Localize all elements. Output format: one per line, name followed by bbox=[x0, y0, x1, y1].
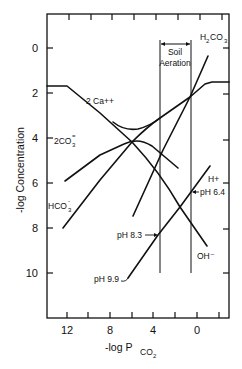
y-tick-label: 8 bbox=[32, 222, 38, 234]
svg-text:2CO: 2CO bbox=[54, 136, 72, 146]
x-axis-title-subscript: CO bbox=[140, 347, 153, 357]
label-2ca: 2 Ca++ bbox=[86, 96, 114, 106]
curves bbox=[47, 56, 229, 278]
x-tick-label: 4 bbox=[150, 324, 156, 336]
svg-text:HCO: HCO bbox=[48, 201, 67, 211]
x-tick-label: 8 bbox=[107, 324, 113, 336]
label-ph83: pH 8.3 bbox=[117, 230, 158, 240]
svg-text:3: 3 bbox=[224, 38, 228, 44]
x-axis-ticks-bottom bbox=[67, 312, 219, 318]
plot-frame bbox=[47, 14, 229, 318]
svg-text:-: - bbox=[68, 198, 70, 204]
x-tick-label: 12 bbox=[61, 324, 73, 336]
svg-text:pH 9.9: pH 9.9 bbox=[94, 274, 119, 284]
x-tick-labels: 12 8 4 0 bbox=[61, 324, 200, 336]
label-2co3: 2CO 3 = bbox=[54, 133, 76, 148]
y-axis-title: -log Concentration bbox=[14, 127, 26, 213]
curve-ca-arc bbox=[113, 82, 229, 129]
curve-hco3 bbox=[63, 118, 160, 228]
y-tick-labels: 0 2 4 6 8 10 bbox=[26, 42, 38, 279]
label-ph64: pH 6.4 bbox=[192, 187, 225, 197]
y-tick-label: 4 bbox=[32, 132, 38, 144]
ph99-hook bbox=[121, 278, 128, 281]
chart-figure: 0 2 4 6 8 10 12 8 4 0 -log Concentration… bbox=[0, 0, 242, 369]
curve-co3 bbox=[65, 141, 178, 181]
y-tick-label: 0 bbox=[32, 42, 38, 54]
x-axis-title-main: -log P bbox=[105, 341, 132, 353]
svg-text:pH 6.4: pH 6.4 bbox=[200, 187, 225, 197]
svg-text:CO: CO bbox=[210, 32, 223, 42]
label-h2co3: H 2 CO 3 bbox=[200, 32, 228, 44]
svg-text:=: = bbox=[72, 133, 76, 139]
x-axis-title: -log P CO 2 bbox=[105, 341, 157, 359]
label-oh-minus: OH⁻ bbox=[197, 251, 215, 261]
svg-text:3: 3 bbox=[68, 207, 72, 213]
y-tick-label: 6 bbox=[32, 177, 38, 189]
curve-h-plus bbox=[128, 166, 210, 278]
svg-text:pH 8.3: pH 8.3 bbox=[117, 230, 142, 240]
label-h-plus: H+ bbox=[208, 174, 219, 184]
y-tick-label: 10 bbox=[26, 267, 38, 279]
chart-svg: 0 2 4 6 8 10 12 8 4 0 -log Concentration… bbox=[0, 0, 242, 369]
label-aeration: Aeration bbox=[159, 58, 191, 68]
x-axis-title-subscript-2: 2 bbox=[153, 353, 157, 359]
x-axis-ticks-top bbox=[69, 14, 222, 20]
label-hco3: HCO 3 - bbox=[48, 198, 72, 213]
y-axis-ticks-left bbox=[47, 48, 53, 273]
label-ph99: pH 9.9 bbox=[94, 274, 128, 284]
svg-text:3: 3 bbox=[72, 142, 76, 148]
label-soil: Soil bbox=[168, 47, 182, 57]
y-tick-label: 2 bbox=[32, 87, 38, 99]
x-tick-label: 0 bbox=[194, 324, 200, 336]
